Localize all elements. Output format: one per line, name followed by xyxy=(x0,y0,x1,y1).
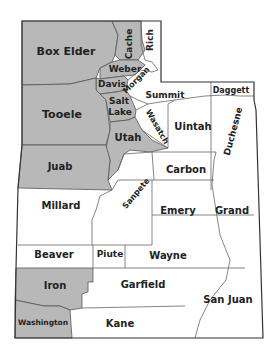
label-salt-lake-line2: Lake xyxy=(108,107,132,117)
label-grand: Grand xyxy=(215,205,249,216)
label-rich: Rich xyxy=(145,29,155,51)
label-utah: Utah xyxy=(115,132,142,143)
utah-county-map: Box Elder Cache Rich Weber Davis Morgan … xyxy=(0,0,272,358)
label-millard: Millard xyxy=(41,200,80,211)
label-tooele: Tooele xyxy=(42,108,82,121)
label-cache: Cache xyxy=(124,29,134,60)
label-uintah: Uintah xyxy=(174,121,211,132)
label-salt-lake-line1: Salt xyxy=(109,96,130,106)
label-wayne: Wayne xyxy=(149,250,187,261)
label-washington: Washington xyxy=(18,318,68,327)
label-kane: Kane xyxy=(106,318,135,329)
label-box-elder: Box Elder xyxy=(37,45,96,58)
label-carbon: Carbon xyxy=(166,164,206,175)
label-iron: Iron xyxy=(44,280,67,291)
label-san-juan: San Juan xyxy=(203,294,252,305)
label-garfield: Garfield xyxy=(121,279,166,290)
label-piute: Piute xyxy=(97,249,124,259)
label-beaver: Beaver xyxy=(34,249,73,260)
label-emery: Emery xyxy=(160,205,196,216)
label-juab: Juab xyxy=(47,161,73,172)
label-daggett: Daggett xyxy=(213,86,250,95)
label-summit: Summit xyxy=(145,90,185,100)
